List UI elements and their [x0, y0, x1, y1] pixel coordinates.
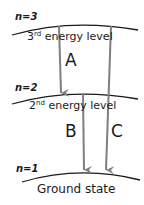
level-name: energy level: [45, 30, 113, 43]
ordinal-number: 2: [29, 99, 36, 112]
n3-label: n=3: [15, 12, 37, 22]
n3-level-name: 3rd energy level: [27, 31, 113, 42]
n2-label: n=2: [15, 83, 37, 93]
level-curve-n1: [22, 173, 140, 182]
transition-arrow-c: [106, 26, 111, 170]
ordinal-suffix: rd: [34, 30, 41, 38]
ordinal-number: 3: [27, 30, 34, 43]
transition-label-c: C: [111, 123, 123, 140]
transition-label-b: B: [65, 123, 77, 140]
ground-state-label: Ground state: [37, 183, 115, 195]
ordinal-suffix: nd: [36, 99, 45, 107]
transition-label-a: A: [65, 52, 77, 69]
n2-level-name: 2nd energy level: [29, 100, 116, 111]
n1-label: n=1: [16, 164, 38, 174]
level-name: energy level: [48, 99, 116, 112]
